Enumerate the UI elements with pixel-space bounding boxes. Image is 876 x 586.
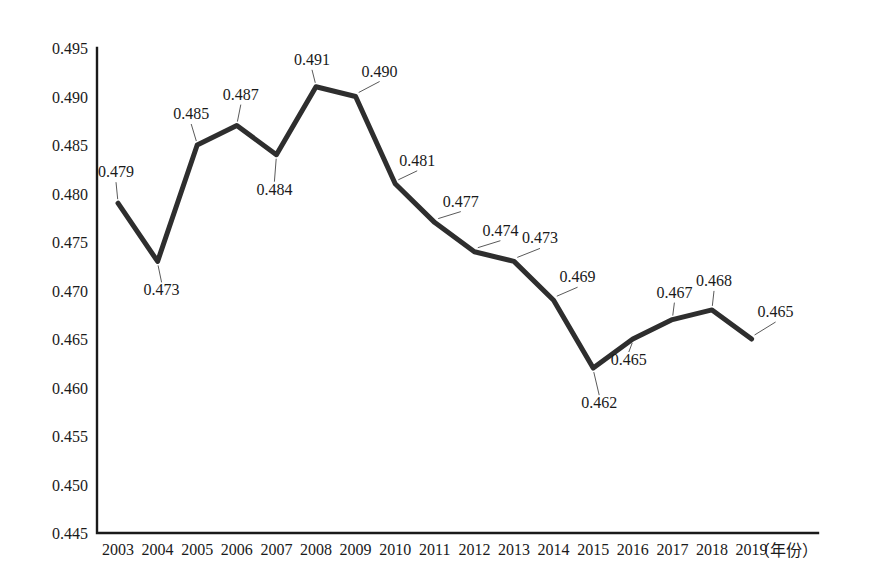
data-point-label: 0.477 [443, 193, 479, 210]
data-point-label: 0.465 [611, 351, 647, 368]
y-axis-tick-label: 0.490 [52, 89, 88, 106]
data-point-label: 0.465 [758, 303, 794, 320]
data-point-label: 0.473 [522, 229, 558, 246]
x-axis-tick-label: 2011 [419, 541, 450, 558]
y-axis-tick-label: 0.470 [52, 283, 88, 300]
x-axis-tick-label: 2017 [656, 541, 688, 558]
y-axis-tick-label: 0.495 [52, 40, 88, 57]
data-point-label: 0.490 [362, 63, 398, 80]
y-axis-tick-label: 0.480 [52, 186, 88, 203]
data-point-label: 0.474 [482, 222, 518, 239]
x-axis-tick-label: 2015 [577, 541, 609, 558]
y-axis-tick-label: 0.485 [52, 137, 88, 154]
x-axis-caption: （年份） [754, 542, 818, 559]
data-point-label: 0.491 [294, 51, 330, 68]
x-axis-tick-label: 2012 [458, 541, 490, 558]
x-axis-tick-label: 2018 [696, 541, 728, 558]
x-axis-tick-label: 2016 [617, 541, 649, 558]
x-axis-tick-label: 2003 [102, 541, 134, 558]
x-axis-tick-label: 2004 [142, 541, 174, 558]
chart-canvas: 0.4950.4900.4850.4800.4750.4700.4650.460… [0, 0, 876, 586]
x-axis-tick-label: 2009 [340, 541, 372, 558]
data-point-label: 0.467 [656, 284, 692, 301]
x-axis-tick-label: 2013 [498, 541, 530, 558]
y-axis-tick-label: 0.450 [52, 477, 88, 494]
chart-background [0, 0, 876, 586]
data-point-label: 0.462 [581, 394, 617, 411]
data-point-label: 0.473 [144, 281, 180, 298]
x-axis-tick-labels: 2003200420052006200720082009201020112012… [102, 541, 768, 558]
data-point-label: 0.481 [399, 152, 435, 169]
data-point-label: 0.479 [98, 163, 134, 180]
y-axis-tick-label: 0.460 [52, 380, 88, 397]
x-axis-tick-label: 2007 [260, 541, 292, 558]
y-axis-tick-label: 0.445 [52, 525, 88, 542]
data-point-label: 0.485 [173, 105, 209, 122]
x-axis-tick-label: 2005 [181, 541, 213, 558]
line-chart: 0.4950.4900.4850.4800.4750.4700.4650.460… [0, 0, 876, 586]
x-axis-tick-label: 2014 [538, 541, 570, 558]
y-axis-tick-label: 0.475 [52, 234, 88, 251]
y-axis-tick-label: 0.455 [52, 428, 88, 445]
data-point-label: 0.484 [256, 181, 292, 198]
x-axis-tick-label: 2006 [221, 541, 253, 558]
y-axis-tick-label: 0.465 [52, 331, 88, 348]
x-axis-tick-label: 2010 [379, 541, 411, 558]
data-point-label: 0.468 [696, 272, 732, 289]
data-point-label: 0.487 [223, 86, 259, 103]
x-axis-tick-label: 2008 [300, 541, 332, 558]
data-point-label: 0.469 [560, 268, 596, 285]
